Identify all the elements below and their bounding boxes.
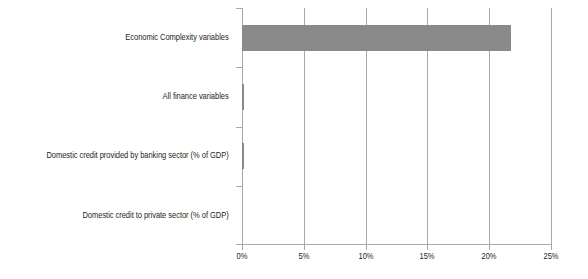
bar bbox=[242, 25, 511, 51]
bar-chart: Economic Complexity variables All financ… bbox=[0, 0, 588, 279]
category-label: Domestic credit provided by banking sect… bbox=[19, 127, 236, 186]
x-tick bbox=[304, 245, 305, 250]
x-tick bbox=[489, 245, 490, 250]
bar-row bbox=[242, 127, 551, 186]
x-tick-label: 25% bbox=[544, 252, 559, 261]
x-tick bbox=[551, 245, 552, 250]
plot-area bbox=[242, 8, 551, 245]
bar-row bbox=[242, 67, 551, 126]
category-label: Domestic credit to private sector (% of … bbox=[19, 186, 236, 245]
x-tick bbox=[366, 245, 367, 250]
x-tick bbox=[242, 245, 243, 250]
x-tick-label: 5% bbox=[298, 252, 309, 261]
x-axis-ticks bbox=[242, 245, 552, 250]
category-label: All finance variables bbox=[19, 67, 236, 126]
x-tick-label: 10% bbox=[358, 252, 373, 261]
x-axis-tick-labels: 0%5%10%15%20%25% bbox=[242, 252, 552, 270]
x-tick bbox=[427, 245, 428, 250]
x-tick-label: 15% bbox=[420, 252, 435, 261]
y-axis-category-labels: Economic Complexity variables All financ… bbox=[0, 8, 236, 245]
bar-series bbox=[242, 8, 551, 245]
x-tick-label: 20% bbox=[482, 252, 497, 261]
bar bbox=[242, 143, 244, 169]
bar bbox=[242, 84, 244, 110]
gridline bbox=[551, 8, 552, 245]
x-tick-label: 0% bbox=[237, 252, 248, 261]
bar-row bbox=[242, 186, 551, 245]
category-label: Economic Complexity variables bbox=[19, 8, 236, 67]
bar-row bbox=[242, 8, 551, 67]
